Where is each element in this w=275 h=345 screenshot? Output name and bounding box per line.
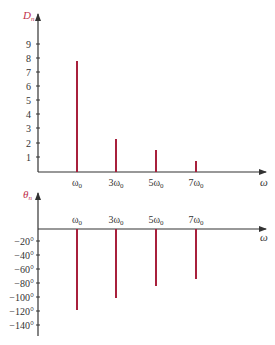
tick-label: 5	[26, 95, 31, 106]
phase-chart: θn ω ω0 3ω0 5ω0 7ω0 −20° −40° −60° −80° …	[9, 188, 268, 336]
bottom-y-ticks: −20° −40° −60° −80° −100° −120° −140°	[9, 236, 40, 331]
cat-label-w0: ω0	[72, 177, 83, 190]
tick-label: 6	[26, 81, 31, 92]
tick-label: 8	[26, 53, 31, 64]
top-x-axis-title: ω	[260, 176, 268, 188]
tick-label: 9	[26, 39, 31, 50]
cat-label-w0: ω0	[72, 214, 83, 227]
tick-label: −100°	[9, 292, 34, 303]
tick-label: −60°	[14, 264, 34, 275]
cat-label-3w0: 3ω0	[108, 214, 124, 227]
figure: Dn ω 9 8 7 6 5 4 3 2 1	[0, 0, 275, 345]
magnitude-chart: Dn ω 9 8 7 6 5 4 3 2 1	[22, 9, 268, 190]
bottom-x-axis-title: ω	[260, 231, 268, 243]
top-bars	[77, 61, 196, 172]
tick-label: 4	[26, 109, 31, 120]
bottom-bars	[77, 229, 196, 310]
tick-label: 7	[26, 67, 31, 78]
tick-label: −80°	[14, 278, 34, 289]
top-y-axis-title: Dn	[22, 9, 35, 23]
tick-label: 3	[26, 123, 31, 134]
cat-label-7w0: 7ω0	[188, 177, 204, 190]
tick-label: 2	[26, 138, 31, 149]
tick-label: −20°	[14, 236, 34, 247]
tick-label: −40°	[14, 250, 34, 261]
cat-label-5w0: 5ω0	[148, 177, 164, 190]
cat-label-5w0: 5ω0	[148, 214, 164, 227]
tick-label: 1	[26, 152, 31, 163]
tick-label: −140°	[9, 320, 34, 331]
bottom-x-labels: ω0 3ω0 5ω0 7ω0	[72, 214, 204, 227]
top-x-labels: ω0 3ω0 5ω0 7ω0	[72, 177, 204, 190]
bottom-y-axis-title: θn	[23, 188, 32, 202]
cat-label-7w0: 7ω0	[188, 214, 204, 227]
tick-label: −120°	[9, 306, 34, 317]
cat-label-3w0: 3ω0	[108, 177, 124, 190]
